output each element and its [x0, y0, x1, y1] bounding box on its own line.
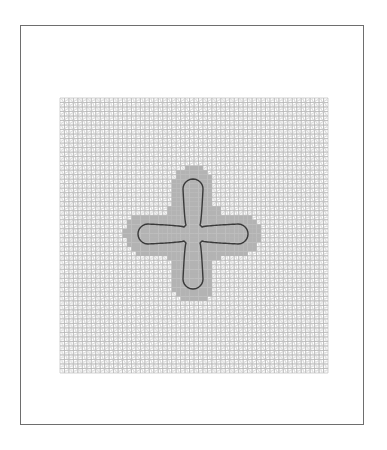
mesh-diagram: [0, 0, 387, 450]
